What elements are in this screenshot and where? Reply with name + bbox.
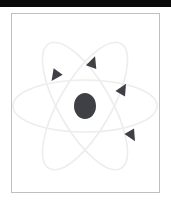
page-root [0,0,171,203]
figure-frame [11,13,160,193]
electron-upper-center [86,54,100,69]
top-dark-bar [0,0,171,7]
atom-diagram [12,14,161,194]
nucleus [74,93,96,119]
